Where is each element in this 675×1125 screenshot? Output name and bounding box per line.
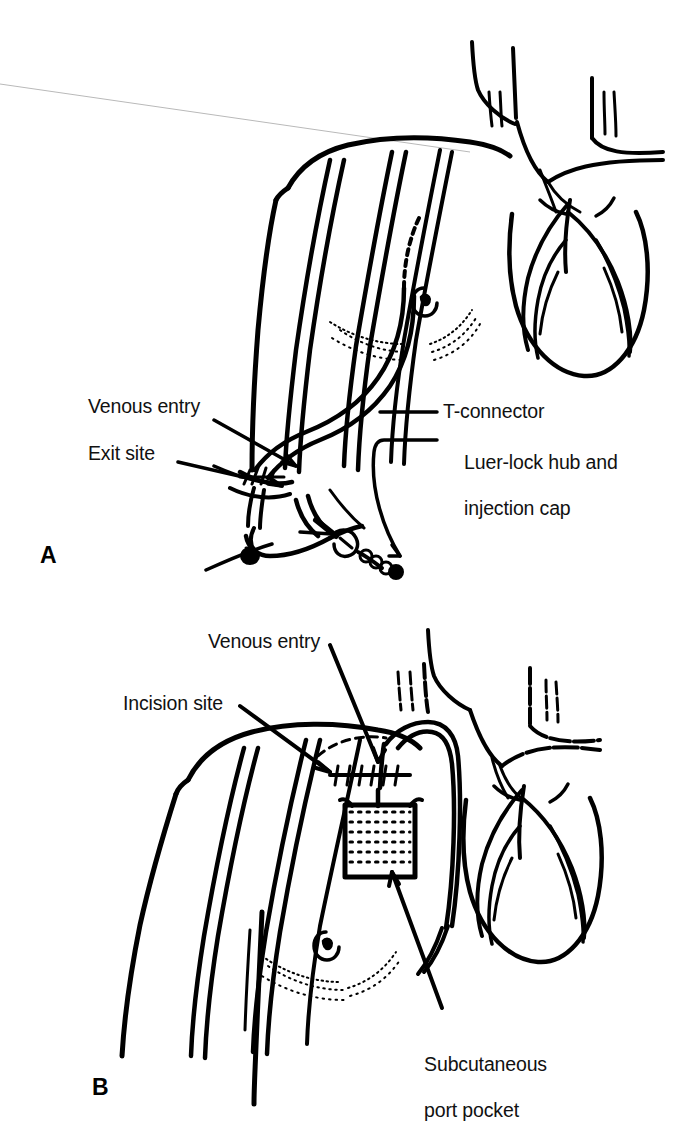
panel-b-neck-vessels <box>398 630 600 800</box>
panel-b-incision-sutures <box>330 766 410 785</box>
panel-letter-a: A <box>40 542 57 569</box>
panel-b-implanted-port <box>340 790 422 877</box>
panel-a-leader-t-connector <box>356 412 437 450</box>
panel-b-ribs <box>191 740 360 1058</box>
label-venous-entry-b: Venous entry <box>208 630 320 653</box>
panel-a-neck-vessels <box>472 42 663 212</box>
label-port-pocket-line-2: port pocket <box>424 1099 519 1121</box>
label-incision-site: Incision site <box>123 692 223 715</box>
panel-b-port-catheter <box>380 722 460 974</box>
label-t-connector: T-connector <box>443 400 544 423</box>
panel-a-ribs <box>285 150 452 472</box>
label-exit-site-a: Exit site <box>88 442 155 465</box>
label-subcutaneous-port-pocket: Subcutaneous port pocket <box>403 1030 547 1125</box>
label-luer-lock-line-2: injection cap <box>464 497 570 519</box>
panel-a-catheter <box>214 216 420 497</box>
panel-a-heart <box>509 198 647 376</box>
panel-b-midline <box>245 912 262 1104</box>
panel-a-t-connector <box>296 496 336 536</box>
panel-a-leader-exit-site <box>178 462 282 486</box>
scan-artifact-line <box>0 84 470 152</box>
label-luer-lock-line-1: Luer-lock hub and <box>464 451 618 473</box>
label-luer-lock-hub: Luer-lock hub and injection cap <box>443 428 618 543</box>
label-port-pocket-line-1: Subcutaneous <box>424 1053 547 1075</box>
label-venous-entry-a: Venous entry <box>88 395 200 418</box>
panel-letter-b: B <box>92 1074 109 1101</box>
panel-b-leader-port-pocket <box>389 872 442 1008</box>
panel-b-heart <box>463 784 601 962</box>
